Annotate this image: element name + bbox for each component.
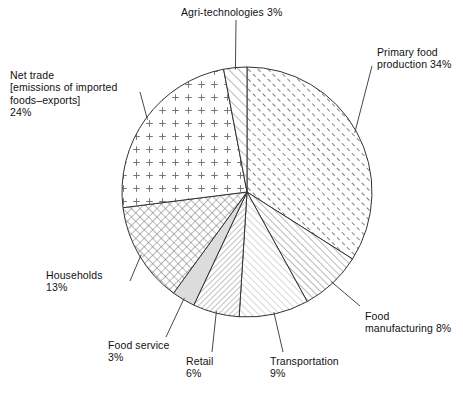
leader-line-retail	[212, 311, 216, 352]
slice-label-agri-technologies: Agri-technologies 3%	[181, 6, 282, 18]
slice-label-food-manufacturing: Food manufacturing 8%	[365, 310, 451, 335]
slice-label-primary-food-production: Primary food production 34%	[377, 46, 451, 71]
slice-label-transportation: Transportation 9%	[270, 355, 339, 380]
leader-line-primary-food-production	[355, 66, 372, 133]
pie-slices	[122, 67, 372, 317]
slice-label-food-service: Food service 3%	[108, 339, 169, 364]
leader-line-net-trade	[140, 92, 147, 120]
leader-line-food-manufacturing	[331, 282, 360, 306]
slice-label-households: Households 13%	[46, 269, 103, 294]
leader-line-households	[130, 255, 141, 281]
leader-line-transportation	[274, 312, 283, 352]
pie-chart: Agri-technologies 3% Primary food produc…	[0, 0, 463, 396]
slice-label-retail: Retail 6%	[186, 355, 213, 380]
leader-line-food-service	[166, 298, 184, 337]
slice-label-net-trade: Net trade [emissions of imported foods–e…	[10, 69, 117, 119]
leader-line-agri-technologies	[235, 20, 236, 70]
